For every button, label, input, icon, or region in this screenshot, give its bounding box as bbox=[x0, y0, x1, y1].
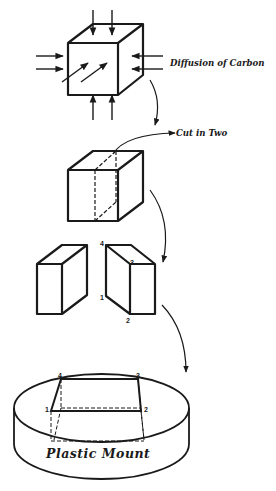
mount-vertex-3: 3 bbox=[136, 372, 140, 379]
left-half-block bbox=[37, 245, 87, 314]
flow-arrow-1 bbox=[150, 80, 158, 125]
vertex-label-3: 3 bbox=[130, 259, 134, 266]
diffusion-label: Diffusion of Carbon bbox=[169, 58, 265, 68]
plastic-mount-label: Plastic Mount bbox=[45, 446, 150, 461]
vertex-label-2: 2 bbox=[126, 317, 130, 324]
mount-vertex-4: 4 bbox=[58, 372, 62, 379]
plastic-mount bbox=[14, 374, 189, 479]
flow-arrow-2 bbox=[150, 190, 166, 262]
cube-with-cut-plane bbox=[68, 151, 143, 221]
mount-vertex-1: 1 bbox=[45, 406, 49, 413]
vertex-label-4: 4 bbox=[100, 240, 104, 247]
flow-arrow-3 bbox=[162, 305, 186, 372]
mount-vertex-2: 2 bbox=[144, 406, 148, 413]
carbon-diffusion-cube bbox=[68, 24, 143, 95]
cut-label: Cut in Two bbox=[176, 128, 227, 138]
vertex-label-1: 1 bbox=[100, 294, 104, 301]
diagram-canvas: Diffusion of Carbon Cut in Two 4 3 1 2 bbox=[0, 0, 276, 491]
right-half-block bbox=[106, 245, 155, 314]
embedded-specimen bbox=[51, 379, 144, 441]
cut-plane-lines bbox=[95, 151, 116, 221]
